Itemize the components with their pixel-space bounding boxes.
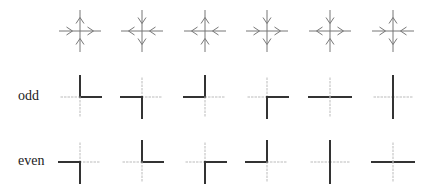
- tile: [184, 76, 226, 118]
- tile: [309, 76, 351, 118]
- odd-tile-row: [59, 76, 414, 118]
- tile: [121, 141, 163, 183]
- odd-row-label: odd: [18, 88, 39, 104]
- tile: [372, 141, 414, 183]
- tile: [184, 141, 226, 183]
- arrow-cross-glyph: [184, 10, 226, 52]
- tile: [246, 141, 288, 183]
- arrow-cross-glyph: [246, 10, 288, 52]
- arrow-cross-glyph: [59, 10, 101, 52]
- tile-diagram: [0, 0, 432, 194]
- tile: [59, 76, 101, 118]
- tile: [309, 141, 351, 183]
- arrow-cross-glyph: [121, 10, 163, 52]
- even-row-label: even: [18, 153, 44, 169]
- even-tile-row: [59, 141, 414, 183]
- tile: [59, 141, 101, 183]
- arrow-cross-glyph: [309, 10, 351, 52]
- tile: [246, 76, 288, 118]
- tile: [372, 76, 414, 118]
- tile: [121, 76, 163, 118]
- arrow-glyph-row: [59, 10, 414, 52]
- arrow-cross-glyph: [372, 10, 414, 52]
